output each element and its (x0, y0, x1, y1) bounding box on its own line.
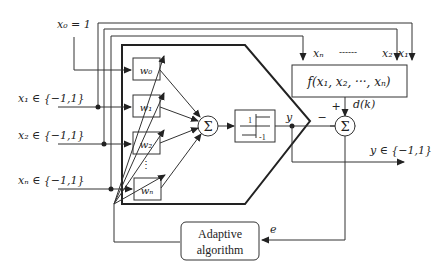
x1-label: x₁ ∈ {−1,1} (18, 92, 84, 105)
x0-label: x₀ = 1 (57, 18, 91, 31)
adaline-diagram: Σ 1 -1 y − y ∈ {−1,1} f(x₁, x₂, ···, xₙ)… (0, 0, 446, 273)
summer-2-symbol: Σ (340, 119, 349, 134)
adaptive-line2: algorithm (197, 243, 244, 257)
x2-label: x₂ ∈ {−1,1} (18, 129, 84, 142)
y-output-range: y ∈ {−1,1} (369, 144, 432, 157)
adaptive-line1: Adaptive (198, 227, 242, 241)
xn-label: xₙ ∈ {−1,1} (18, 174, 85, 187)
weights-ellipsis: ⋮ (141, 159, 151, 170)
adaptive-algorithm-box: Adaptive algorithm (181, 222, 259, 260)
sign-low-label: -1 (259, 133, 266, 142)
xn-top-label: xₙ (313, 47, 324, 60)
w0-label: w₀ (140, 65, 153, 76)
error-label: e (270, 223, 277, 236)
desired-label: d(k) (353, 98, 375, 111)
xn-node (109, 187, 114, 192)
weight-to-sum-lines (160, 70, 201, 188)
plus-sign: + (331, 100, 340, 113)
x2-node (102, 142, 107, 147)
x2-top-label: x₂ (382, 47, 393, 60)
w2-label: w₂ (140, 139, 153, 150)
x1-node (96, 105, 101, 110)
target-function-box: f(x₁, x₂, ···, xₙ) (292, 65, 407, 97)
inputs-dashes: ------ (339, 47, 357, 57)
summer-1-symbol: Σ (203, 119, 212, 134)
sign-high-label: 1 (248, 116, 252, 125)
wn-label: wₙ (141, 185, 154, 196)
minus-sign: − (317, 111, 326, 124)
sign-block: 1 -1 (235, 110, 275, 142)
w1-label: w₁ (140, 102, 153, 113)
x1-top-label: x₁ (398, 47, 409, 60)
target-function-label: f(x₁, x₂, ···, xₙ) (307, 75, 391, 89)
y-label: y (285, 111, 293, 124)
